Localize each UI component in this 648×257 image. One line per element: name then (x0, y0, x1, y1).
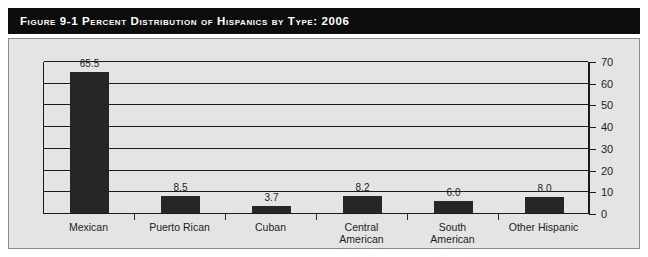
gridline-60 (44, 83, 588, 84)
bar (70, 72, 108, 214)
gridline-70 (44, 61, 588, 62)
bar-value-label: 6.0 (447, 187, 461, 198)
figure-title: Figure 9-1 Percent Distribution of Hispa… (20, 15, 349, 27)
gridline-30 (44, 148, 588, 149)
y-axis-tick (589, 62, 596, 63)
x-axis-tick (316, 214, 317, 220)
y-axis-tick-label: 60 (601, 78, 613, 90)
bar-value-label: 8.0 (538, 183, 552, 194)
gridline-20 (44, 170, 588, 171)
y-axis-tick (589, 149, 596, 150)
y-axis-line (589, 62, 590, 214)
y-axis-tick-label: 30 (601, 143, 613, 155)
y-axis-tick-label: 40 (601, 121, 613, 133)
y-axis-tick-label: 50 (601, 99, 613, 111)
category-label: Puerto Rican (149, 221, 210, 233)
y-axis-tick-label: 70 (601, 56, 613, 68)
y-axis-tick (589, 127, 596, 128)
y-axis-tick (589, 192, 596, 193)
y-axis-tick-label: 20 (601, 165, 613, 177)
gridline-40 (44, 126, 588, 127)
x-axis-tick (498, 214, 499, 220)
bar-value-label: 3.7 (265, 192, 279, 203)
bar (161, 196, 199, 214)
y-axis-tick-label: 10 (601, 186, 613, 198)
gridline-10 (44, 191, 588, 192)
gridline-50 (44, 104, 588, 105)
bar-value-label: 65.5 (80, 58, 99, 69)
category-label: Other Hispanic (509, 221, 578, 233)
category-label: Central American (339, 221, 383, 245)
y-axis-tick (589, 105, 596, 106)
y-axis-tick (589, 214, 596, 215)
plot-area: 65.58.53.78.26.08.0 (43, 62, 589, 214)
category-label: South American (430, 221, 474, 245)
bar-value-label: 8.5 (174, 182, 188, 193)
x-axis-tick (407, 214, 408, 220)
x-axis-tick (225, 214, 226, 220)
chart-panel: 65.58.53.78.26.08.0 MexicanPuerto RicanC… (8, 38, 640, 249)
bar (343, 196, 381, 214)
category-label: Cuban (255, 221, 286, 233)
bar-value-label: 8.2 (356, 182, 370, 193)
y-axis-tick (589, 171, 596, 172)
bar (525, 197, 563, 214)
figure-title-bar: Figure 9-1 Percent Distribution of Hispa… (8, 8, 640, 34)
figure-container: Figure 9-1 Percent Distribution of Hispa… (0, 0, 648, 257)
category-label: Mexican (69, 221, 108, 233)
x-axis-tick (134, 214, 135, 220)
y-axis-tick-label: 0 (601, 208, 607, 220)
y-axis-tick (589, 84, 596, 85)
